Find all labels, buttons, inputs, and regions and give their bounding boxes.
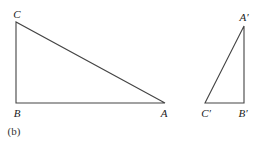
triangle-a-prime-b-prime-c-prime <box>205 26 244 103</box>
vertex-label-b: B <box>14 108 21 119</box>
vertex-label-a: A <box>161 108 168 119</box>
vertex-label-c-prime: C′ <box>201 108 211 119</box>
vertex-label-b-prime: B′ <box>238 108 247 119</box>
diagram-canvas <box>0 0 261 146</box>
triangle-abc <box>16 22 165 103</box>
figure-caption: (b) <box>8 126 21 137</box>
vertex-label-c: C <box>13 9 20 20</box>
vertex-label-a-prime: A′ <box>239 12 248 23</box>
